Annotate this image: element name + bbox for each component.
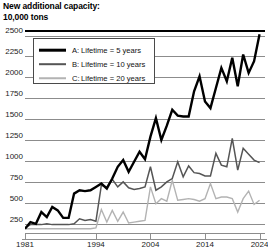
y-tick-label: 1750 xyxy=(1,90,23,98)
y-tick-label: 250 xyxy=(1,216,23,224)
x-tick-mark xyxy=(260,234,261,239)
chart-legend: A: Lifetime = 5 years B: Lifetime = 10 y… xyxy=(33,38,155,84)
legend-label-b: Lifetime = 10 years xyxy=(81,60,145,69)
x-tick-mark xyxy=(150,234,151,239)
x-tick-mark xyxy=(25,234,26,239)
y-tick-label: 1500 xyxy=(1,111,23,119)
y-tick-label: 2000 xyxy=(1,69,23,77)
x-tick-mark xyxy=(96,234,97,239)
x-tick-label: 2024 xyxy=(245,241,268,249)
legend-key-a: A: xyxy=(72,46,81,55)
y-tick-label: 500 xyxy=(1,195,23,203)
legend-label-a: Lifetime = 5 years xyxy=(81,46,141,55)
y-tick-label: 2500 xyxy=(1,27,23,35)
y-tick-label: 1250 xyxy=(1,132,23,140)
x-tick-label: 2004 xyxy=(135,241,165,249)
legend-item-a: A: Lifetime = 5 years xyxy=(39,43,149,57)
y-tick-label: 2250 xyxy=(1,48,23,56)
y-tick-label: 750 xyxy=(1,174,23,182)
legend-item-c: C: Lifetime = 20 years xyxy=(39,71,149,85)
x-tick-label: 2014 xyxy=(190,241,220,249)
x-tick-mark xyxy=(205,234,206,239)
y-tick-label: 1000 xyxy=(1,153,23,161)
legend-key-c: C: xyxy=(72,74,81,83)
legend-key-b: B: xyxy=(72,60,81,69)
legend-item-b: B: Lifetime = 10 years xyxy=(39,57,149,71)
x-tick-label: 1981 xyxy=(10,241,40,249)
legend-label-c: Lifetime = 20 years xyxy=(81,74,145,83)
chart-figure: New additional capacity: 10,000 tons 250… xyxy=(0,0,268,250)
x-tick-label: 1994 xyxy=(81,241,111,249)
chart-title: New additional capacity: 10,000 tons xyxy=(3,1,100,22)
